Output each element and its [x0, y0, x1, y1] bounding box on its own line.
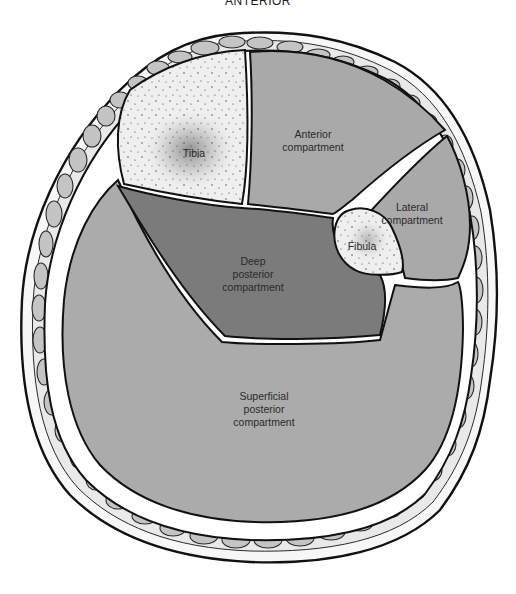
leg-cross-section-diagram: ANTERIOR: [0, 0, 516, 594]
superficial-posterior-label-line2: posterior: [244, 403, 285, 415]
anterior-compartment-label-line2: compartment: [282, 141, 343, 153]
fibula-label: Fibula: [348, 240, 377, 252]
tibia-label: Tibia: [183, 147, 206, 159]
superficial-posterior-label-line1: Superficial: [239, 390, 288, 402]
anterior-orientation-label: ANTERIOR: [225, 0, 291, 8]
lateral-compartment-label-line2: compartment: [381, 214, 442, 226]
deep-posterior-label-line2: posterior: [233, 268, 274, 280]
deep-posterior-label-line3: compartment: [222, 281, 283, 293]
superficial-posterior-label-line3: compartment: [233, 416, 294, 428]
anterior-compartment-label-line1: Anterior: [295, 128, 332, 140]
lateral-compartment-label-line1: Lateral: [396, 201, 428, 213]
deep-posterior-label-line1: Deep: [240, 255, 265, 267]
